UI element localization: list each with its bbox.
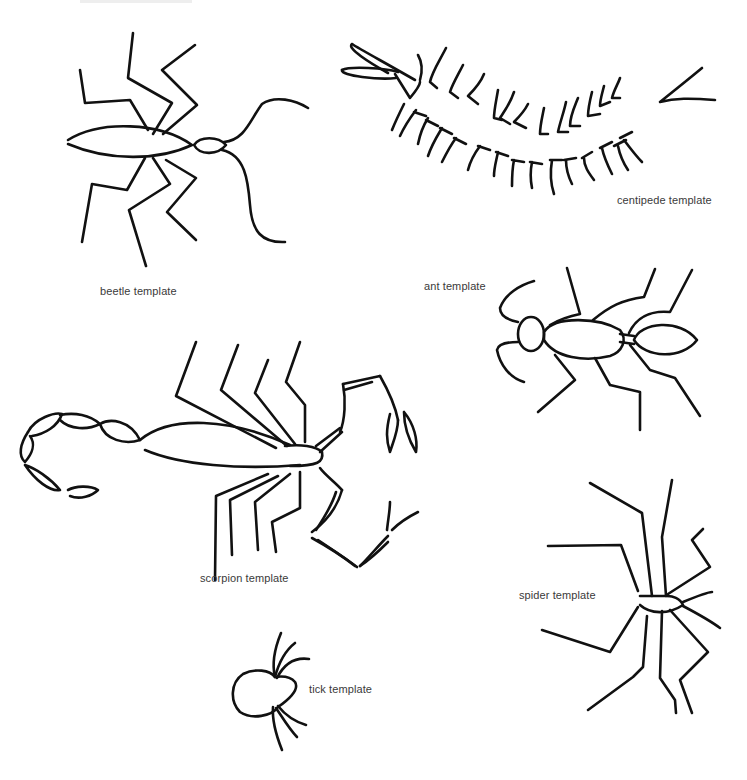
tick-label: tick template — [309, 683, 372, 695]
ant-label: ant template — [424, 280, 486, 292]
centipede-label: centipede template — [617, 194, 712, 206]
spider-label: spider template — [519, 589, 596, 601]
beetle-label: beetle template — [100, 285, 177, 297]
template-sheet: beetle template centipede template ant t… — [0, 0, 747, 780]
tick-drawing — [0, 0, 747, 780]
scorpion-label: scorpion template — [200, 572, 289, 584]
